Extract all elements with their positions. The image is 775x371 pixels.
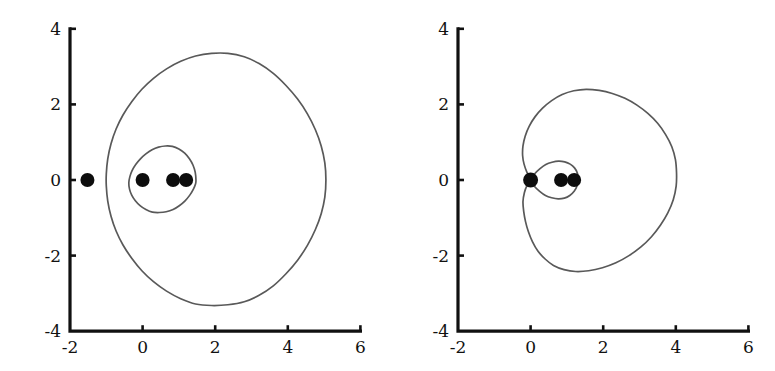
- marker-dot-d: [179, 173, 193, 187]
- markers-group: [523, 173, 581, 188]
- plot-canvas-right: -20246-4-2024: [388, 0, 775, 371]
- axis-lines: [70, 29, 360, 331]
- axes-group: [458, 29, 748, 331]
- axes-group: [70, 29, 360, 331]
- y-tick-label: -4: [432, 321, 449, 341]
- level-curve: [523, 89, 677, 271]
- y-tick-label: 0: [50, 170, 61, 190]
- plot-canvas-left: -20246-4-2024: [0, 0, 387, 371]
- x-tick-label: 2: [210, 337, 221, 357]
- y-tick-label: -4: [44, 321, 61, 341]
- curves-group: [523, 89, 677, 271]
- marker-dot-b: [554, 173, 568, 187]
- figure-root: -20246-4-2024 -20246-4-2024: [0, 0, 775, 371]
- y-tick-label: 4: [438, 19, 449, 39]
- axis-lines: [458, 29, 748, 331]
- y-tick-label: 2: [438, 94, 449, 114]
- x-tick-label: 4: [282, 337, 293, 357]
- x-tick-label: 6: [355, 337, 366, 357]
- x-tick-label: -2: [450, 337, 467, 357]
- x-tick-label: 0: [525, 337, 536, 357]
- x-tick-label: -2: [62, 337, 79, 357]
- marker-dot-a: [80, 173, 94, 187]
- marker-dot-a: [523, 173, 538, 188]
- y-tick-label: 4: [50, 19, 61, 39]
- x-tick-label: 0: [137, 337, 148, 357]
- x-tick-label: 2: [598, 337, 609, 357]
- chart-panel-right: -20246-4-2024: [388, 0, 775, 371]
- y-tick-label: 0: [438, 170, 449, 190]
- x-tick-label: 6: [743, 337, 754, 357]
- marker-dot-c: [166, 173, 180, 187]
- chart-panel-left: -20246-4-2024: [0, 0, 387, 371]
- y-tick-label: 2: [50, 94, 61, 114]
- marker-dot-b: [136, 173, 150, 187]
- y-tick-label: -2: [432, 246, 449, 266]
- y-tick-label: -2: [44, 246, 61, 266]
- marker-dot-c: [567, 173, 581, 187]
- markers-group: [80, 173, 193, 187]
- x-tick-label: 4: [670, 337, 681, 357]
